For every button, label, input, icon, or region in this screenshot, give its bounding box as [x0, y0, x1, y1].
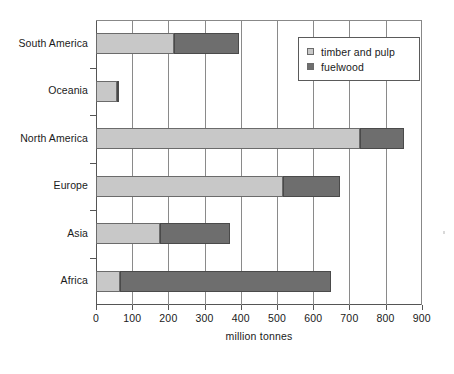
bar-segment-south-america-timber-and-pulp — [96, 33, 174, 54]
x-tick-700 — [349, 305, 350, 310]
x-tick-label-100: 100 — [123, 312, 141, 324]
x-tick-300 — [205, 305, 206, 310]
gridline-100 — [132, 20, 133, 305]
category-label-text: Asia — [67, 227, 88, 239]
x-axis-title: million tonnes — [96, 330, 422, 342]
bar-segment-europe-fuelwood — [283, 176, 340, 197]
category-label-text: Europe — [54, 179, 88, 191]
category-label-text: North America — [20, 132, 88, 144]
y-tick-2 — [90, 115, 96, 116]
gridline-200 — [168, 20, 169, 305]
bar-chart: 0100200300400500600700800900 South Ameri… — [0, 0, 454, 374]
bar-segment-europe-timber-and-pulp — [96, 176, 283, 197]
x-tick-0 — [96, 305, 97, 310]
legend-label-fuelwood: fuelwood — [321, 61, 364, 73]
y-tick-1 — [90, 68, 96, 69]
x-tick-label-900: 900 — [413, 312, 431, 324]
legend-item-fuelwood: fuelwood — [307, 59, 413, 74]
square-light-swatch-icon — [307, 48, 314, 55]
x-tick-label-800: 800 — [377, 312, 395, 324]
category-label-text: Oceania — [48, 84, 88, 96]
bar-segment-oceania-fuelwood — [117, 81, 119, 102]
x-tick-label-700: 700 — [340, 312, 358, 324]
x-tick-label-600: 600 — [304, 312, 322, 324]
category-label-text: South America — [18, 37, 88, 49]
x-tick-400 — [241, 305, 242, 310]
x-tick-label-200: 200 — [159, 312, 177, 324]
bar-segment-asia-fuelwood — [160, 223, 230, 244]
x-tick-label-500: 500 — [268, 312, 286, 324]
x-tick-100 — [132, 305, 133, 310]
y-tick-5 — [90, 258, 96, 259]
category-label-text: Africa — [61, 274, 88, 286]
square-dark-swatch-icon — [307, 63, 314, 70]
bar-segment-north-america-fuelwood — [360, 128, 404, 149]
legend-item-timber-and-pulp: timber and pulp — [307, 44, 413, 59]
bar-segment-north-america-timber-and-pulp — [96, 128, 360, 149]
y-tick-3 — [90, 163, 96, 164]
x-tick-500 — [277, 305, 278, 310]
bar-segment-africa-fuelwood — [120, 271, 331, 292]
x-tick-label-300: 300 — [196, 312, 214, 324]
gridline-500 — [277, 20, 278, 305]
x-tick-label-400: 400 — [232, 312, 250, 324]
gridline-300 — [205, 20, 206, 305]
x-tick-200 — [168, 305, 169, 310]
bar-segment-oceania-timber-and-pulp — [96, 81, 117, 102]
scan-artifact — [443, 231, 445, 234]
x-tick-900 — [422, 305, 423, 310]
legend-label-timber-and-pulp: timber and pulp — [321, 46, 395, 58]
bar-segment-asia-timber-and-pulp — [96, 223, 160, 244]
y-tick-4 — [90, 210, 96, 211]
plot-top-border — [96, 20, 422, 21]
bar-segment-africa-timber-and-pulp — [96, 271, 120, 292]
plot-right-border — [421, 20, 422, 305]
bar-segment-south-america-fuelwood — [174, 33, 239, 54]
x-tick-800 — [386, 305, 387, 310]
x-tick-600 — [313, 305, 314, 310]
x-tick-label-0: 0 — [93, 312, 99, 324]
chart-legend: timber and pulp fuelwood — [298, 37, 420, 81]
gridline-400 — [241, 20, 242, 305]
